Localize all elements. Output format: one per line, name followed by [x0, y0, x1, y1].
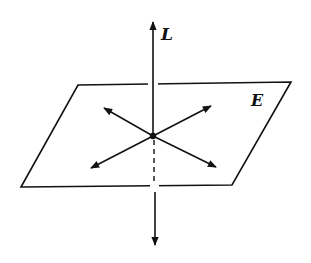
intersection-point [150, 133, 156, 139]
label-plane-e: E [250, 91, 264, 110]
label-line-l: L [160, 24, 173, 44]
perpendicular-line-plane-diagram: L E [0, 0, 311, 263]
vector-lower-right [153, 136, 216, 167]
vector-upper-right [153, 106, 211, 136]
vector-lower-left [91, 136, 153, 168]
diagram-canvas: L E [0, 0, 311, 263]
vector-upper-left [104, 108, 153, 136]
